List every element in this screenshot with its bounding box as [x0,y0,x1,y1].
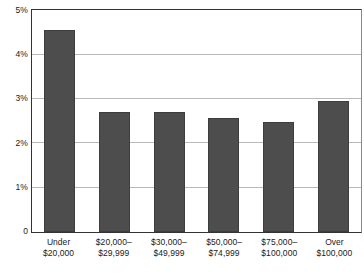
y-axis: 5% 4% 3% 2% 1% 0 [0,0,28,280]
bar[interactable] [263,122,294,232]
x-tick-label: $30,000–$49,999 [141,237,196,277]
y-tick-label: 5% [2,6,28,15]
plot-area [31,9,362,233]
x-tick-line-2: $74,999 [197,248,252,259]
x-tick-line-1: $50,000– [197,237,252,248]
bar-slot [87,10,142,232]
y-tick-label: 0 [2,227,28,236]
x-tick-line-2: $100,000 [307,248,362,259]
y-tick-label: 1% [2,183,28,192]
y-tick-label: 4% [2,50,28,59]
bar-slot [142,10,197,232]
bar-slot [196,10,251,232]
bar-slot [306,10,361,232]
bar-slot [32,10,87,232]
x-tick-line-2: $29,999 [86,248,141,259]
x-tick-label: $20,000–$29,999 [86,237,141,277]
bar[interactable] [99,112,130,232]
x-tick-line-1: $20,000– [86,237,141,248]
x-tick-label: Over$100,000 [307,237,362,277]
y-tick-label: 3% [2,94,28,103]
bar[interactable] [154,112,185,232]
bar-slot [251,10,306,232]
bars-layer [32,10,361,232]
x-tick-label: $50,000–$74,999 [197,237,252,277]
x-tick-line-1: $30,000– [141,237,196,248]
bar[interactable] [44,30,75,232]
x-tick-line-2: $20,000 [31,248,86,259]
x-tick-line-2: $100,000 [252,248,307,259]
bar[interactable] [208,118,239,232]
x-tick-line-1: Over [307,237,362,248]
x-tick-line-2: $49,999 [141,248,196,259]
x-tick-line-1: $75,000– [252,237,307,248]
x-tick-label: $75,000–$100,000 [252,237,307,277]
y-tick-label: 2% [2,139,28,148]
x-axis: Under$20,000 $20,000–$29,999 $30,000–$49… [31,237,362,277]
bar-chart: 5% 4% 3% 2% 1% 0 Under$20,000 $20,000–$2… [0,0,364,280]
x-tick-line-1: Under [31,237,86,248]
x-tick-label: Under$20,000 [31,237,86,277]
bar[interactable] [318,101,349,232]
